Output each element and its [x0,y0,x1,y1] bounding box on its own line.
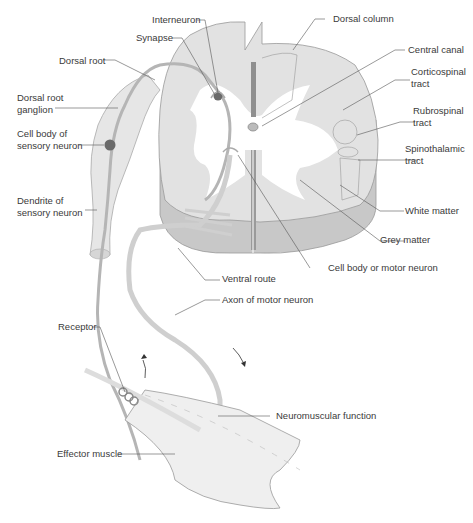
label-dorsal-root-ganglion: Dorsal root ganglion [17,92,63,115]
effector-muscle [125,390,300,509]
label-rubrospinal-tract: Rubrospinal tract [413,105,464,128]
label-interneuron: Interneuron [152,14,201,26]
label-grey-matter: Grey matter [380,234,430,246]
label-central-canal: Central canal [408,44,464,56]
label-receptor: Receptor [58,321,97,333]
label-white-matter: White matter [405,205,459,217]
label-axon-motor: Axon of motor neuron [222,294,313,306]
label-dorsal-root: Dorsal root [59,55,105,67]
label-neuromuscular: Neuromuscular function [276,410,376,422]
sensory-cell-body [105,140,116,151]
label-dorsal-column: Dorsal column [333,13,394,25]
dorsal-median-septum [251,62,256,117]
label-synapse: Synapse [136,32,173,44]
label-effector-muscle: Effector muscle [57,448,122,460]
label-corticospinal-tract: Corticospinal tract [411,66,466,89]
label-spinothalamic-tract: Spinothalamic tract [405,143,465,166]
label-cell-body-motor: Cell body or motor neuron [328,262,438,274]
label-dendrite-sensory: Dendrite of sensory neuron [17,195,82,218]
label-cell-body-sensory: Cell body of sensory neuron [17,128,82,151]
central-canal [248,123,258,131]
label-ventral-route: Ventral route [222,273,276,285]
